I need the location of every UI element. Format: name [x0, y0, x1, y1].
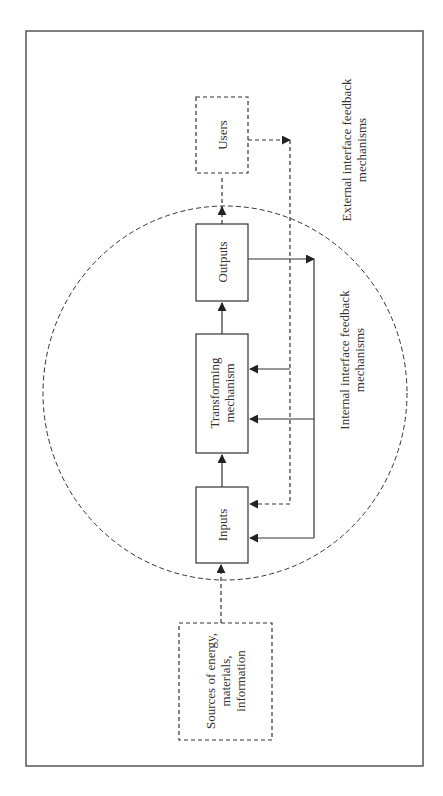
outputs-label: Outputs	[215, 241, 230, 282]
transforming-label: Transforming mechanism	[207, 357, 237, 428]
internal-feedback-label: Internal interface feedback mechanisms	[337, 290, 367, 429]
transforming-label-line-2: mechanism	[222, 357, 237, 428]
users-label-text: Users	[215, 120, 230, 150]
transforming-label-line-1: Transforming	[207, 357, 222, 428]
inputs-label: Inputs	[215, 509, 230, 542]
users-label: Users	[215, 120, 230, 150]
sources-label-line-2: materials,	[218, 633, 233, 729]
external-feedback-label-line-2: mechanisms	[354, 79, 369, 222]
internal-feedback-label-line-2: mechanisms	[352, 290, 367, 429]
sources-label: Sources of energy, materials, informatio…	[203, 633, 248, 729]
external-feedback-label: External interface feedback mechanisms	[339, 79, 369, 222]
external-feedback-label-line-1: External interface feedback	[339, 79, 354, 222]
outputs-label-text: Outputs	[215, 241, 230, 282]
inputs-label-text: Inputs	[215, 509, 230, 542]
sources-label-line-1: Sources of energy,	[203, 633, 218, 729]
internal-feedback-label-line-1: Internal interface feedback	[337, 290, 352, 429]
sources-label-line-3: information	[233, 633, 248, 729]
